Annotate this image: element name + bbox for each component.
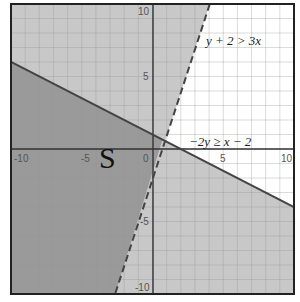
x-tick-label: -5 [81, 153, 90, 164]
x-tick-label: 0 [143, 153, 149, 164]
inequality-label-2: −2y ≥ x − 2 [189, 134, 252, 149]
y-tick-label: -10 [135, 282, 150, 293]
inequality-label-1: y + 2 > 3x [204, 33, 261, 48]
region-label-s: S [99, 141, 116, 174]
y-tick-label: 10 [138, 6, 150, 17]
y-tick-label: -5 [140, 216, 149, 227]
inequality-graph: -10 -5 0 5 10 10 5 -5 -10 y + 2 > 3x −2y… [0, 0, 300, 302]
x-tick-label: 10 [281, 153, 293, 164]
x-tick-label: -10 [14, 153, 29, 164]
y-tick-label: 5 [143, 71, 149, 82]
x-tick-label: 5 [220, 153, 226, 164]
